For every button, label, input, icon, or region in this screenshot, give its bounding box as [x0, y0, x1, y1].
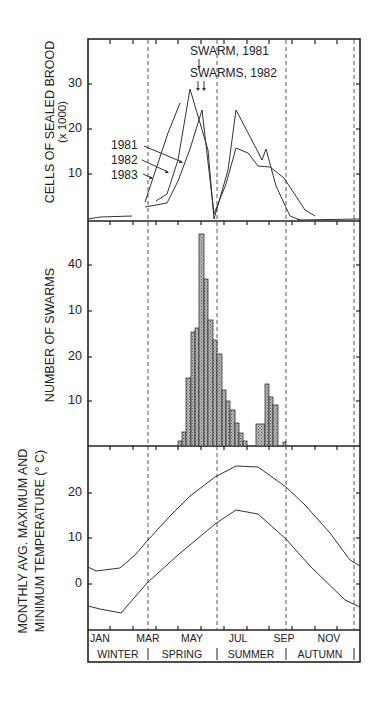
min-temperature-line	[88, 510, 360, 613]
month-label-may: MAY	[172, 632, 212, 644]
temp-tick-20: 20	[56, 485, 82, 499]
season-boundary-lines	[148, 40, 354, 630]
temp-tick-10: 10	[56, 530, 82, 544]
legend-label-1982: 1982	[111, 153, 138, 167]
swarms-tick-30: 10	[56, 303, 82, 317]
brood-right-baseline	[297, 219, 360, 220]
month-label-nov: NOV	[309, 632, 349, 644]
month-label-jan: JAN	[80, 632, 120, 644]
swarms-y-axis-title: NUMBER OF SWARMS	[42, 255, 58, 415]
month-label-mar: MAR	[128, 632, 168, 644]
temperature-curves	[88, 466, 360, 613]
legend-pointer-1982	[142, 160, 168, 172]
swarms-tick-40: 40	[56, 257, 82, 271]
swarms-tick-10: 10	[56, 393, 82, 407]
month-label-sep: SEP	[264, 632, 304, 644]
swarms-tick-20: 20	[56, 349, 82, 363]
x-ticks	[110, 40, 337, 630]
temperature-y-axis-title-2: MINIMUM TEMPERATURE (° C)	[32, 411, 48, 671]
season-label-autumn: AUTUMN	[286, 648, 354, 660]
temp-tick-0: 0	[56, 576, 82, 590]
temperature-y-axis-title-1: MONTHLY AVG. MAXIMUM AND	[15, 411, 31, 671]
season-label-summer: SUMMER	[217, 648, 285, 660]
swarm-1981-annotation: SWARM, 1981	[190, 44, 269, 58]
month-label-jul: JUL	[218, 632, 258, 644]
brood-tick-20: 20	[56, 121, 82, 135]
season-label-winter: WINTER	[84, 648, 152, 660]
swarm-histogram	[178, 234, 286, 446]
brood-baseline	[88, 216, 132, 219]
plot-frame	[88, 39, 360, 662]
brood-tick-30: 30	[56, 76, 82, 90]
legend-label-1981: 1981	[111, 138, 138, 152]
swarms-1982-annotation: SWARMS, 1982	[190, 66, 277, 80]
legend-label-1983: 1983	[111, 168, 138, 182]
season-label-spring: SPRING	[148, 648, 216, 660]
brood-tick-10: 10	[56, 166, 82, 180]
